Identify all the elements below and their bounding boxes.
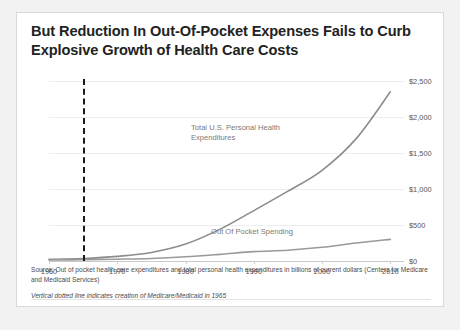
x-axis-tick-mark — [49, 261, 50, 264]
chart-plot: $0$500$1,000$1,500$2,000$2,500 196019701… — [49, 81, 404, 261]
notes-divider — [31, 299, 431, 300]
series-label-total-expenditures: Total U.S. Personal Health Expenditures — [191, 123, 280, 144]
y-axis-tick-label: $2,000 — [409, 113, 432, 122]
x-axis-line — [49, 261, 404, 262]
y-axis-tick-label: $1,000 — [409, 185, 432, 194]
medicare-reference-line — [83, 79, 85, 261]
slide-canvas: But Reduction In Out-Of-Pocket Expenses … — [16, 12, 444, 307]
x-axis-tick-mark — [117, 261, 118, 264]
x-axis-tick-mark — [186, 261, 187, 264]
x-axis-tick-mark — [254, 261, 255, 264]
page-title: But Reduction In Out-Of-Pocket Expenses … — [31, 22, 431, 59]
chart-area: $0$500$1,000$1,500$2,000$2,500 196019701… — [27, 75, 435, 275]
y-axis-tick-label: $1,500 — [409, 149, 432, 158]
x-axis-tick-mark — [322, 261, 323, 264]
source-line: Source: Out of pocket health care expend… — [31, 265, 431, 285]
y-axis-tick-label: $2,500 — [409, 77, 432, 86]
source-notes: Source: Out of pocket health care expend… — [31, 265, 431, 299]
y-axis-tick-label: $500 — [409, 221, 425, 230]
series-label-out-of-pocket: Out Of Pocket Spending — [211, 227, 293, 237]
x-axis-tick-mark — [390, 261, 391, 264]
